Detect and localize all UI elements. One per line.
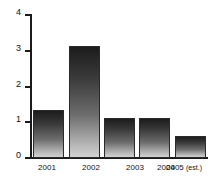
y-tick-label-2: 2 [16,80,21,89]
x-label-2005-year: 2005 [166,163,184,172]
y-tick-label-4: 4 [16,8,21,17]
bar-2002[interactable] [69,46,100,158]
x-label-2005-est: 2005 (est.) [166,163,214,172]
y-tick-label-1: 1 [16,115,21,124]
x-label-est-suffix: (est.) [186,164,202,171]
bar-2001[interactable] [33,110,64,158]
plot-area [31,15,208,158]
x-label-2002: 2002 [70,163,112,172]
bar-2005-est[interactable] [175,136,206,158]
y-tick-label-3: 3 [16,44,21,53]
y-tick-label-0: 0 [16,151,21,160]
bar-chart: 0 1 2 3 4 2001 2002 2003 2004 2005 (est.… [0,0,215,186]
bar-2004[interactable] [139,118,170,158]
bar-2003[interactable] [104,118,135,158]
x-label-2001: 2001 [26,163,68,172]
